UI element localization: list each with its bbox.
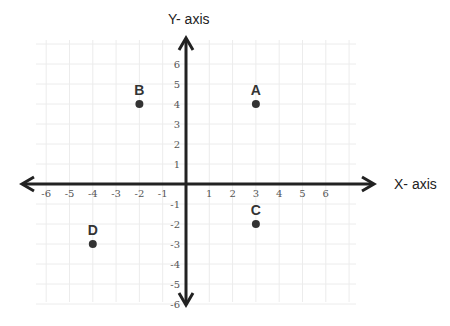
y-tick-label: 4 [174,99,180,110]
grid-lines [36,40,356,304]
y-tick-label: -5 [170,279,180,290]
point-marker-icon [252,220,260,228]
point-label: A [251,82,261,98]
axes [22,38,374,305]
point-marker-icon [89,240,97,248]
point-c: C [251,202,261,228]
x-tick-label: 5 [299,188,305,199]
x-tick-label: -1 [158,188,168,199]
point-d: D [88,222,98,248]
point-marker-icon [252,100,260,108]
y-tick-label: -1 [170,199,180,210]
x-tick-label: 3 [253,188,259,199]
x-tick-label: -3 [111,188,121,199]
y-tick-label: 2 [174,139,180,150]
x-tick-label: -4 [88,188,98,199]
point-label: C [251,202,261,218]
point-label: B [134,82,144,98]
x-axis-label: X- axis [394,176,437,192]
point-label: D [88,222,98,238]
y-tick-label: -6 [170,299,180,310]
x-tick-label: 1 [206,188,212,199]
y-tick-label: 1 [174,159,180,170]
x-tick-label: 4 [276,188,282,199]
coordinate-plane: -6-5-4-3-2-1123456 654321-1-2-3-4-5-6 Y-… [0,0,450,326]
x-tick-label: 6 [323,188,329,199]
point-b: B [134,82,144,108]
x-tick-label: -5 [65,188,75,199]
y-tick-label: 6 [174,59,180,70]
y-axis-label: Y- axis [168,11,210,27]
point-marker-icon [135,100,143,108]
x-tick-label: -6 [41,188,51,199]
y-tick-label: 3 [174,119,180,130]
y-tick-label: -3 [170,239,180,250]
y-tick-label: -4 [170,259,180,270]
x-tick-label: -2 [135,188,145,199]
point-a: A [251,82,261,108]
y-tick-label: -2 [170,219,180,230]
x-tick-label: 2 [229,188,235,199]
y-tick-label: 5 [174,79,180,90]
